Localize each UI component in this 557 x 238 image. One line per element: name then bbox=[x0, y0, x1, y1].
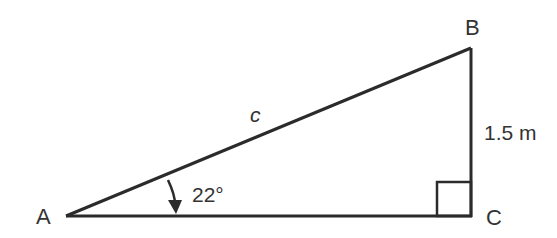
side-bc-length-label: 1.5 m bbox=[484, 121, 537, 144]
vertex-b-label: B bbox=[465, 15, 480, 40]
angle-arrow-icon bbox=[168, 180, 182, 214]
vertex-c-label: C bbox=[486, 205, 502, 230]
triangle-diagram: A B C c 1.5 m 22° bbox=[0, 0, 557, 238]
hypotenuse-label: c bbox=[250, 103, 261, 126]
right-angle-marker bbox=[437, 182, 471, 216]
vertex-a-label: A bbox=[36, 204, 51, 229]
hypotenuse-ab bbox=[66, 48, 471, 216]
triangle bbox=[66, 48, 472, 217]
angle-a-label: 22° bbox=[192, 183, 224, 206]
